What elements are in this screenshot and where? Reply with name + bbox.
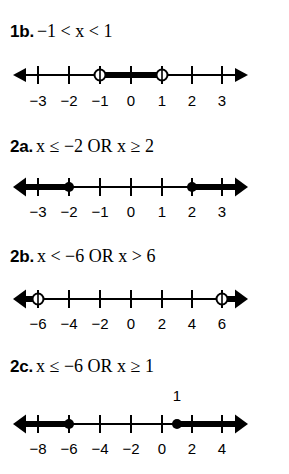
tick-label-0: 0 [127,203,135,221]
tick-label--6: −6 [29,315,46,333]
tick-label--2: −2 [60,203,77,221]
number-line-1b [0,58,289,92]
tick-label-2: 2 [158,315,166,333]
tick-label--4: −4 [60,315,77,333]
problem-number-2a: 2a. [10,137,33,156]
problem-number-2c: 2c. [10,357,33,376]
inequality-expression-2a: x ≤ −2 OR x ≥ 2 [36,136,154,156]
tick-label-3: 3 [218,92,226,110]
tick-labels-1b: −3−2−10123 [0,92,289,112]
number-line-graph-1b [0,58,289,92]
tick-label-1: 1 [158,203,166,221]
tick-label-4: 4 [188,315,196,333]
tick-label--3: −3 [29,203,46,221]
inequality-expression-2b: x < −6 OR x > 6 [37,246,155,266]
problem-heading-2c: 2c.x ≤ −6 OR x ≥ 1 [10,357,154,375]
arrowhead-right [235,415,248,434]
closed-dot-1 [172,419,182,429]
number-line-2a [0,170,289,204]
problem-number-1b: 1b. [10,22,34,41]
tick-label--3: −3 [29,92,46,110]
tick-label-0: 0 [127,92,135,110]
tick-label--1: −1 [91,203,108,221]
number-line-2c [0,407,289,441]
tick-label--2: −2 [60,92,77,110]
tick-label-2: 2 [188,440,196,458]
number-line-2b [0,282,289,316]
arrowhead-right [235,68,248,82]
number-line-graph-2c [0,407,289,441]
closed-dot-2 [187,182,197,192]
arrowhead-left [13,415,26,434]
arrowhead-right [235,178,248,197]
arrowhead-left [13,290,26,309]
worksheet: 1b.−1 < x < 1−3−2−101232a.x ≤ −2 OR x ≥ … [0,0,289,474]
tick-label-4: 4 [218,440,226,458]
tick-label-6: 6 [218,315,226,333]
number-line-graph-2b [0,282,289,316]
tick-labels-2c: −8−6−4−2024 [0,440,289,460]
tick-label--4: −4 [91,440,108,458]
problem-heading-2a: 2a.x ≤ −2 OR x ≥ 2 [10,137,154,155]
tick-label-2: 2 [188,92,196,110]
arrowhead-left [13,178,26,197]
problem-heading-1b: 1b.−1 < x < 1 [10,22,112,40]
tick-label--1: −1 [91,92,108,110]
closed-dot--6 [64,419,74,429]
tick-labels-2a: −3−2−10123 [0,203,289,223]
above-axis-label-2c: 1 [173,388,181,404]
tick-label-2: 2 [188,203,196,221]
tick-labels-2b: −6−4−20246 [0,315,289,335]
tick-label--8: −8 [29,440,46,458]
inequality-expression-1b: −1 < x < 1 [37,21,112,41]
tick-label-1: 1 [158,92,166,110]
closed-dot--2 [64,182,74,192]
number-line-graph-2a [0,170,289,204]
arrowhead-left [13,68,26,82]
arrowhead-right [235,290,248,309]
problem-heading-2b: 2b.x < −6 OR x > 6 [10,247,155,265]
problem-number-2b: 2b. [10,247,34,266]
tick-label--2: −2 [122,440,139,458]
tick-label-3: 3 [218,203,226,221]
tick-label-0: 0 [127,315,135,333]
tick-label--6: −6 [60,440,77,458]
inequality-expression-2c: x ≤ −6 OR x ≥ 1 [36,356,154,376]
tick-label--2: −2 [91,315,108,333]
tick-label-0: 0 [158,440,166,458]
